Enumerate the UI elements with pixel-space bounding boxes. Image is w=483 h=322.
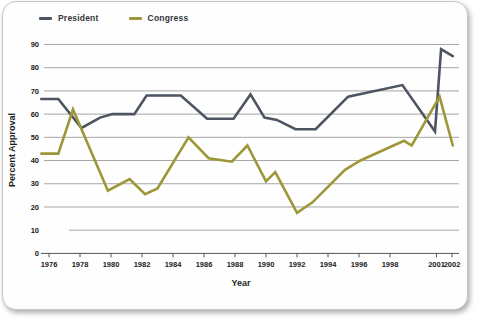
x-tick-label: 1990 (258, 260, 275, 269)
y-tick-label: 80 (31, 63, 39, 72)
legend-item-congress: Congress (129, 13, 189, 23)
president-line-swatch (39, 17, 52, 20)
x-tick-label: 1998 (382, 260, 399, 269)
x-tick-label: 1978 (72, 260, 89, 269)
y-tick-label: 10 (31, 226, 39, 235)
x-tick-label: 1980 (103, 260, 120, 269)
chart-card: President Congress Percent Approval Year… (2, 1, 468, 310)
y-tick-label: 50 (31, 133, 39, 142)
y-axis-title: Percent Approval (7, 110, 17, 190)
y-tick-label: 70 (31, 87, 39, 96)
x-tick-label: 1992 (289, 260, 306, 269)
y-tick-label: 0 (35, 249, 39, 258)
x-tick-label: 1988 (227, 260, 244, 269)
x-axis-title: Year (221, 278, 261, 288)
x-tick-label: 2001 (428, 260, 445, 269)
chart-legend: President Congress (39, 13, 188, 23)
y-tick-label: 60 (31, 110, 39, 119)
legend-item-president: President (39, 13, 99, 23)
y-tick-label: 30 (31, 179, 39, 188)
y-tick-label: 40 (31, 156, 39, 165)
x-tick-label: 2002 (444, 260, 461, 269)
x-tick-label: 1996 (351, 260, 368, 269)
legend-label-congress: Congress (148, 13, 189, 23)
president-line (41, 49, 453, 131)
x-tick-label: 1994 (320, 260, 338, 269)
y-tick-label: 90 (31, 40, 39, 49)
x-tick-label: 1982 (134, 260, 151, 269)
x-tick-label: 1986 (196, 260, 213, 269)
y-tick-label: 20 (31, 203, 39, 212)
congress-line-swatch (129, 17, 142, 20)
x-tick-label: 1976 (41, 260, 58, 269)
approval-line-chart: 0102030405060708090197619781980198219841… (3, 2, 467, 308)
x-tick-label: 1984 (165, 260, 183, 269)
legend-label-president: President (58, 13, 99, 23)
